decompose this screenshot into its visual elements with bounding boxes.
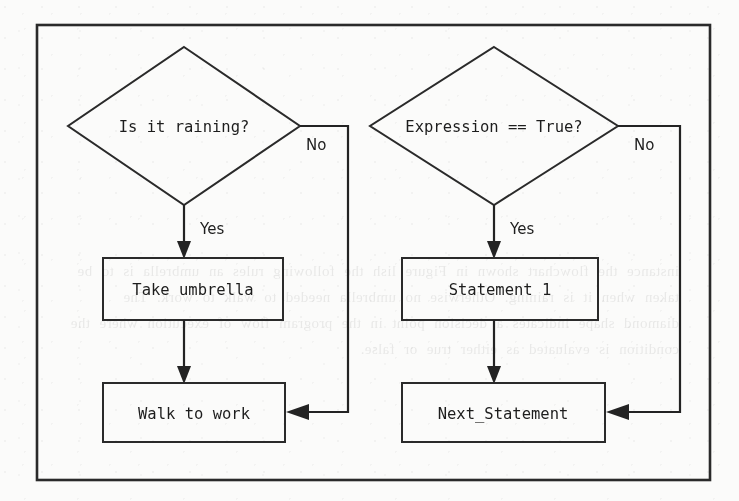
edge-label-raining-yes: Yes <box>199 220 224 238</box>
edge-expression-no-arrowhead <box>606 404 629 420</box>
flowchart-page: instance the flowchart shown in Figure l… <box>0 0 739 501</box>
process-node-statement-1-label: Statement 1 <box>449 281 552 299</box>
process-node-walk-to-work-label: Walk to work <box>138 405 251 423</box>
edge-label-raining-no: No <box>306 136 326 154</box>
process-node-next-statement-label: Next_Statement <box>438 405 569 423</box>
edge-expression-no-line <box>618 126 680 412</box>
edge-label-expression-yes: Yes <box>509 220 534 238</box>
decision-node-is-it-raining-label: Is it raining? <box>119 118 250 136</box>
process-node-take-umbrella-label: Take umbrella <box>132 281 253 299</box>
flowchart-diagram: Is it raining? Yes Take umbrella Walk to… <box>0 0 739 501</box>
edge-raining-yes-arrowhead <box>177 241 191 259</box>
edge-raining-no-arrowhead <box>286 404 309 420</box>
left-flowchart: Is it raining? Yes Take umbrella Walk to… <box>68 47 348 442</box>
edge-raining-no-line <box>300 126 348 412</box>
edge-label-expression-no: No <box>634 136 654 154</box>
edge-statement1-to-next-arrowhead <box>487 366 501 384</box>
edge-umbrella-to-walk-arrowhead <box>177 366 191 384</box>
decision-node-expression-true-label: Expression == True? <box>405 118 582 136</box>
right-flowchart: Expression == True? Yes Statement 1 Next… <box>370 47 680 442</box>
edge-expression-yes-arrowhead <box>487 241 501 259</box>
